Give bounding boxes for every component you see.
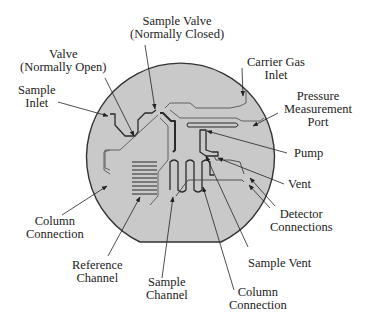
label-reference-channel: Reference Channel [72, 259, 123, 285]
label-sample-vent: Sample Vent [248, 257, 311, 270]
label-column-connection-bottom: Column Connection [229, 286, 287, 312]
label-valve: Valve (Normally Open) [20, 48, 106, 74]
label-line: Channel [146, 289, 188, 302]
label-detector-connections: Detector Connections [270, 208, 333, 234]
label-line: (Normally Open) [20, 61, 106, 74]
wafer [87, 63, 275, 242]
label-line: Connections [270, 221, 333, 234]
label-line: (Normally Closed) [130, 28, 224, 41]
label-line: Sample Vent [248, 257, 311, 270]
label-line: Inlet [18, 97, 56, 110]
label-pump: Pump [294, 147, 323, 160]
label-line: Vent [288, 178, 311, 191]
label-sample-inlet: Sample Inlet [18, 84, 56, 110]
label-line: Port [284, 116, 352, 129]
label-sample-valve: Sample Valve (Normally Closed) [130, 15, 224, 41]
label-line: Pump [294, 147, 323, 160]
label-line: Channel [72, 272, 123, 285]
label-line: Inlet [247, 69, 305, 82]
label-sample-channel: Sample Channel [146, 276, 188, 302]
label-column-connection-left: Column Connection [26, 215, 84, 241]
label-pressure-measurement-port: Pressure Measurement Port [284, 90, 352, 129]
label-line: Connection [229, 299, 287, 312]
label-vent: Vent [288, 178, 311, 191]
label-carrier-gas-inlet: Carrier Gas Inlet [247, 56, 305, 82]
label-line: Connection [26, 228, 84, 241]
